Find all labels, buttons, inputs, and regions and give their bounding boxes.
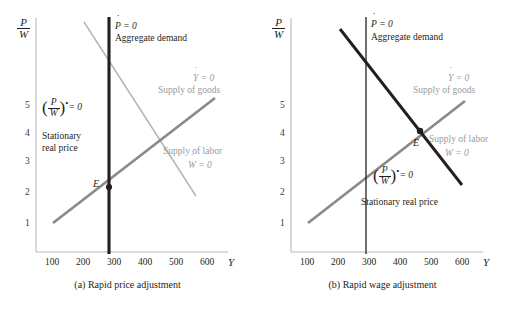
panel-b-ydot-equals: = 0 [453,73,469,83]
panel-a-ydot-symbol: Y [193,73,198,84]
panel-b-aggregate-demand-label: Aggregate demand [371,32,443,43]
panel-a-y-tick-2: 2 [25,187,30,198]
panel-b-y-tick-4: 4 [280,128,285,139]
panel-a-x-tick-600: 600 [200,257,214,268]
panel-a-pw-equals: = 0 [68,102,82,112]
panel-a-equilibrium-marker [106,184,112,190]
economics-phase-diagram-figure: P W 5 4 3 2 1 100 200 300 400 500 600 Y … [0,0,510,311]
panel-b-y-tick-2: 2 [280,187,285,198]
panel-b-stationary-real-price-line [340,29,462,185]
panel-a-supply-of-goods-label: Supply of goods [158,85,220,96]
panel-a-pdot-symbol: P [115,21,121,32]
panel-b-equilibrium-marker [417,128,423,134]
panel-b-pw-equals: = 0 [399,170,413,180]
panel-b-pw-denominator: W [379,176,391,187]
panel-a-wdot-symbol: W [188,160,196,171]
panel-a-stationary-line2: real price [42,143,78,154]
panel-a-rapid-price-adjustment: P W 5 4 3 2 1 100 200 300 400 500 600 Y … [0,0,255,311]
panel-b-y-axis-label: P W [272,17,285,40]
panel-b-pdot-equation: P = 0 [371,19,393,30]
panel-b-caption: (b) Rapid wage adjustment [255,279,510,291]
panel-a-aggregate-demand-line [84,22,196,196]
panel-b-rapid-wage-adjustment: P W 5 4 3 2 1 100 200 300 400 500 600 Y … [255,0,510,311]
panel-b-wdot-equals: = 0 [453,148,469,158]
panel-a-x-tick-100: 100 [45,257,59,268]
panel-b-plot [255,0,510,311]
panel-a-pw-numerator: P [48,98,60,108]
panel-b-pw-numerator: P [379,166,391,176]
panel-b-x-tick-400: 400 [393,257,407,268]
panel-b-x-tick-600: 600 [455,257,469,268]
panel-a-y-axis-numerator: P [17,17,30,28]
panel-a-stationary-line1: Stationary [42,131,81,142]
panel-b-supply-of-labor-label: Supply of labor [429,134,488,145]
panel-a-ydot-equals: = 0 [198,73,214,83]
panel-b-ydot-equation: Y = 0 [448,73,469,84]
panel-a-y-tick-3: 3 [25,156,30,167]
panel-a-x-axis-label: Y [228,256,234,269]
panel-a-wdot-equation: W = 0 [188,160,212,171]
panel-b-supply-of-goods-label: Supply of goods [413,85,475,96]
panel-b-wdot-symbol: W [445,148,453,159]
panel-a-equilibrium-label: E [93,178,99,190]
panel-a-pdot-equation: P = 0 [115,21,137,32]
panel-a-x-tick-400: 400 [138,257,152,268]
panel-b-y-axis-numerator: P [272,17,285,28]
panel-a-y-axis-label: P W [17,17,30,40]
panel-b-ydot-symbol: Y [448,73,453,84]
panel-a-pdot-equals: = 0 [121,21,137,31]
panel-b-x-tick-500: 500 [424,257,438,268]
panel-a-stationary-real-price-equation: (PW)•= 0 [42,98,82,118]
panel-b-x-axis-label: Y [483,256,489,269]
panel-b-x-tick-300: 300 [362,257,376,268]
panel-a-x-tick-300: 300 [107,257,121,268]
panel-a-pw-denominator: W [48,108,60,119]
panel-a-caption: (a) Rapid price adjustment [0,279,255,291]
panel-a-x-tick-200: 200 [76,257,90,268]
panel-b-wdot-equation: W = 0 [445,148,469,159]
panel-b-stationary-line1: Stationary real price [361,197,438,208]
panel-a-y-tick-4: 4 [25,128,30,139]
panel-a-ydot-equation: Y = 0 [193,73,214,84]
panel-a-x-tick-500: 500 [169,257,183,268]
panel-b-pdot-symbol: P [371,19,377,30]
panel-a-y-axis-denominator: W [17,28,30,40]
panel-b-equilibrium-label: E [413,137,419,149]
panel-b-x-tick-100: 100 [300,257,314,268]
panel-a-wdot-equals: = 0 [196,160,212,170]
panel-b-stationary-real-price-equation: (PW)•= 0 [373,166,413,186]
panel-a-y-tick-1: 1 [25,218,30,229]
panel-b-y-axis-denominator: W [272,28,285,40]
panel-b-pdot-equals: = 0 [377,19,393,29]
panel-a-y-tick-5: 5 [25,100,30,111]
panel-b-x-tick-200: 200 [331,257,345,268]
panel-b-y-tick-3: 3 [280,156,285,167]
panel-a-aggregate-demand-label: Aggregate demand [115,33,187,44]
panel-b-y-tick-5: 5 [280,100,285,111]
panel-b-y-tick-1: 1 [280,218,285,229]
